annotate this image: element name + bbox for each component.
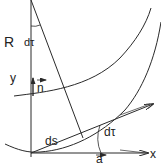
curvature-diagram: R dτ y n ds dτ a x: [0, 0, 161, 163]
y-axis-label: y: [10, 71, 16, 85]
angle-arc-bottom-icon: [98, 125, 101, 153]
angle-top-label: dτ: [24, 36, 35, 48]
arc-length-label: ds: [45, 134, 58, 148]
radius-line: [31, 0, 83, 138]
radius-label: R: [4, 34, 14, 50]
tangent-vector-label: a: [96, 152, 103, 163]
x-axis-label: x: [150, 147, 156, 161]
normal-vector-label: n: [37, 81, 44, 95]
angle-arc-top-icon: [31, 25, 40, 26]
angle-bottom-label: dτ: [104, 125, 116, 139]
inner-arc: [14, 8, 151, 96]
